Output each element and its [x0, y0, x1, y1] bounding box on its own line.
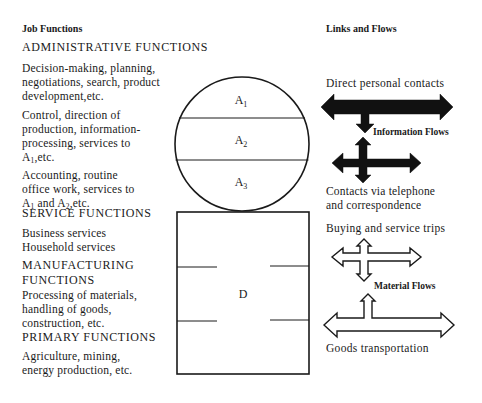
zone-a2-label: A2 [235, 133, 248, 149]
telephone-contacts-arrow [332, 137, 421, 183]
zone-d-label: D [239, 287, 248, 301]
buying-trips-arrow [332, 239, 421, 281]
information-flow-arrows [321, 94, 453, 183]
telephone-correspondence-label: Contacts via telephone and correspondenc… [326, 184, 435, 212]
material-flows-label: Material Flows [374, 281, 435, 291]
information-flows-label: Information Flows [373, 127, 449, 137]
buying-service-trips-label: Buying and service trips [326, 222, 445, 234]
direct-personal-contacts-label: Direct personal contacts [326, 77, 444, 89]
links-and-flows-header: Links and Flows [326, 23, 397, 34]
zone-a3-label: A3 [235, 175, 248, 191]
goods-transport-arrow [324, 294, 454, 337]
zone-a1-label: A1 [235, 93, 248, 109]
goods-transportation-label: Goods transportation [326, 342, 429, 354]
